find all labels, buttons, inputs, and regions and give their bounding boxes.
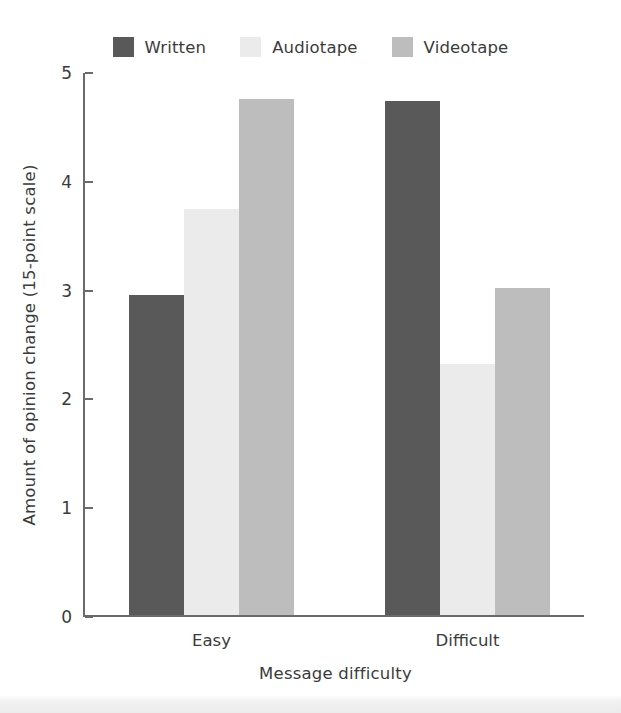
page-scan-band: [0, 695, 621, 713]
legend-entry-videotape: Videotape: [392, 37, 509, 57]
bar-difficult-written: [385, 101, 440, 615]
y-axis-tick-0: [85, 616, 93, 618]
chart-legend: Written Audiotape Videotape: [0, 30, 621, 64]
bar-easy-videotape: [239, 99, 294, 615]
y-axis-tick-label-3: 3: [61, 282, 72, 299]
legend-label-audiotape: Audiotape: [272, 38, 357, 57]
legend-entry-audiotape: Audiotape: [240, 37, 357, 57]
x-axis-tick-label-easy: Easy: [192, 631, 231, 650]
legend-label-videotape: Videotape: [424, 38, 509, 57]
y-axis-tick-5: [85, 72, 93, 74]
x-axis-title-text: Message difficulty: [259, 664, 412, 683]
bar-easy-audiotape: [184, 209, 239, 615]
y-axis-tick-1: [85, 507, 93, 509]
y-axis-tick-label-5: 5: [61, 65, 72, 82]
x-axis-tick-label-difficult: Difficult: [436, 631, 500, 650]
y-axis-tick-label-4: 4: [61, 173, 72, 190]
y-axis-spine: [83, 73, 85, 617]
legend-entry-written: Written: [113, 37, 207, 57]
legend-swatch-audiotape: [240, 37, 261, 57]
x-axis-spine: [83, 615, 584, 617]
bar-easy-written: [129, 295, 184, 615]
bar-chart-figure: Written Audiotape Videotape 012345 EasyD…: [0, 0, 621, 713]
x-axis-title: Message difficulty: [0, 664, 621, 683]
y-axis-tick-label-2: 2: [61, 391, 72, 408]
legend-swatch-videotape: [392, 37, 413, 57]
y-axis-tick-2: [85, 398, 93, 400]
legend-label-written: Written: [145, 38, 207, 57]
y-axis-tick-label-1: 1: [61, 500, 72, 517]
y-axis-tick-label-0: 0: [61, 609, 72, 626]
y-axis-title: Amount of opinion change (15-point scale…: [20, 73, 50, 617]
bar-difficult-videotape: [495, 288, 550, 615]
y-axis-tick-3: [85, 290, 93, 292]
y-axis-tick-4: [85, 181, 93, 183]
plot-area: 012345 EasyDifficult: [83, 73, 584, 617]
legend-swatch-written: [113, 37, 134, 57]
bar-difficult-audiotape: [440, 364, 495, 615]
